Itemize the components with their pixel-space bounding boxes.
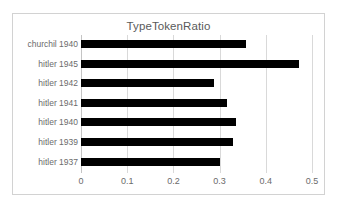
bar-row: hitler 1941 [81, 94, 312, 112]
chart-frame: TypeTokenRatio churchil 1940hitler 1945h… [12, 13, 325, 195]
category-label: hitler 1941 [14, 94, 78, 112]
bar-series: churchil 1940hitler 1945hitler 1942hitle… [81, 35, 312, 173]
bar-row: churchil 1940 [81, 35, 312, 53]
chart-title: TypeTokenRatio [13, 20, 324, 32]
category-label: hitler 1937 [14, 153, 78, 171]
bar-row: hitler 1939 [81, 133, 312, 151]
plot-area: churchil 1940hitler 1945hitler 1942hitle… [81, 35, 312, 173]
bar [81, 118, 236, 126]
x-tick-label: 0.1 [121, 176, 134, 186]
x-axis: 00.10.20.30.40.5 [81, 174, 312, 190]
bar-row: hitler 1937 [81, 153, 312, 171]
category-label: hitler 1942 [14, 74, 78, 92]
bar-row: hitler 1942 [81, 74, 312, 92]
bar-row: hitler 1945 [81, 55, 312, 73]
x-tick-label: 0.2 [167, 176, 180, 186]
bar-row: hitler 1940 [81, 113, 312, 131]
bar [81, 40, 246, 48]
bar [81, 60, 299, 68]
x-tick-label: 0 [78, 176, 83, 186]
bar [81, 158, 220, 166]
bar [81, 138, 233, 146]
gridline-0.5 [312, 35, 313, 173]
x-tick-label: 0.5 [306, 176, 319, 186]
x-tick-label: 0.3 [213, 176, 226, 186]
category-label: hitler 1945 [14, 55, 78, 73]
bar [81, 79, 214, 87]
category-label: hitler 1940 [14, 113, 78, 131]
category-label: churchil 1940 [14, 35, 78, 53]
x-tick-label: 0.4 [260, 176, 273, 186]
bar [81, 99, 227, 107]
category-label: hitler 1939 [14, 133, 78, 151]
